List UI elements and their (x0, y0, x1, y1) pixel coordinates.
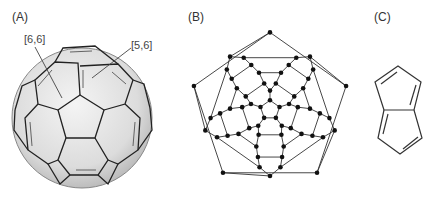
atom-node (310, 133, 315, 138)
atom-node (279, 133, 284, 138)
atom-node (240, 105, 245, 110)
atom-node (286, 63, 291, 68)
atom-node (243, 94, 248, 99)
atom-node (208, 116, 213, 121)
atom-node (280, 155, 285, 160)
atom-node (203, 128, 208, 133)
atom-node (268, 88, 273, 93)
atom-node (228, 54, 233, 59)
atom-node (221, 170, 226, 175)
atom-node (274, 81, 279, 86)
pentalene-structure (375, 66, 422, 154)
atom-node (274, 116, 279, 121)
atom-node (249, 63, 254, 68)
atom-node (308, 106, 313, 111)
atom-node (257, 165, 262, 170)
atom-node (289, 126, 294, 131)
atom-node (268, 98, 273, 103)
atom-node (344, 84, 349, 89)
atom-node (296, 105, 301, 110)
atom-node (277, 105, 282, 110)
atom-node (287, 102, 292, 107)
atom-node (241, 55, 246, 60)
atom-node (236, 132, 241, 137)
atom-node (256, 155, 261, 160)
schlegel-diagram (192, 30, 349, 178)
atom-node (247, 126, 252, 131)
atom-node (279, 70, 284, 75)
atom-node (281, 144, 286, 149)
atom-node (278, 165, 283, 170)
atom-node (218, 111, 223, 116)
atom-node (321, 135, 326, 140)
atom-node (315, 170, 320, 175)
atom-node (311, 67, 316, 72)
fullerene-ball (12, 46, 152, 188)
atom-node (262, 81, 267, 86)
atom-node (256, 123, 261, 128)
atom-node (225, 133, 230, 138)
atom-node (268, 30, 273, 35)
atom-node (292, 94, 297, 99)
atom-node (327, 116, 332, 121)
atom-node (225, 67, 230, 72)
atom-node (301, 86, 306, 91)
atom-node (294, 55, 299, 60)
atom-node (228, 106, 233, 111)
atom-node (192, 84, 197, 89)
atom-node (235, 86, 240, 91)
atom-node (306, 77, 311, 82)
figure-canvas (0, 0, 435, 197)
atom-node (332, 128, 337, 133)
atom-node (258, 105, 263, 110)
atom-node (229, 77, 234, 82)
atom-node (254, 144, 259, 149)
atom-node (215, 135, 220, 140)
atom-node (318, 111, 323, 116)
atom-node (249, 102, 254, 107)
atom-node (262, 116, 267, 121)
atom-node (299, 132, 304, 137)
atom-node (256, 133, 261, 138)
atom-node (308, 54, 313, 59)
atom-node (268, 174, 273, 179)
atom-node (279, 123, 284, 128)
atom-node (257, 70, 262, 75)
